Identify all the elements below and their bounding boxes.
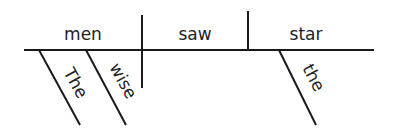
modifier-word-object-the: the bbox=[298, 60, 329, 94]
object-word: star bbox=[290, 24, 323, 44]
verb-word: saw bbox=[178, 24, 211, 44]
subject-word: men bbox=[64, 24, 102, 44]
sentence-diagram: men saw star The wise the bbox=[0, 0, 396, 134]
